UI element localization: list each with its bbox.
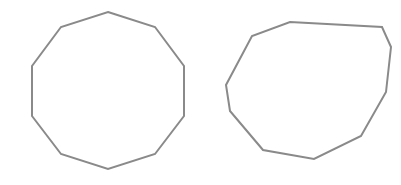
irregular-decagon-shape	[226, 22, 391, 159]
diagram-canvas	[0, 0, 401, 185]
shapes-svg	[0, 0, 401, 185]
regular-decagon-shape	[32, 12, 184, 169]
